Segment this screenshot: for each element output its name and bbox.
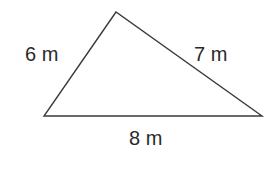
triangle-shape bbox=[44, 12, 262, 116]
triangle-diagram: 6 m 7 m 8 m bbox=[0, 0, 273, 176]
side-label-right: 7 m bbox=[194, 43, 227, 65]
side-label-left: 6 m bbox=[25, 43, 58, 65]
side-label-bottom: 8 m bbox=[129, 127, 162, 149]
